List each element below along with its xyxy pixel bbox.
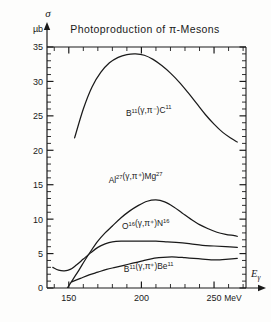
svg-text:Al27(γ,π⁺)Mg27: Al27(γ,π⁺)Mg27 <box>109 171 163 184</box>
y-tick-label: 20 <box>33 146 43 156</box>
y-tick-label: 25 <box>33 111 43 121</box>
y-tick-label: 5 <box>38 249 43 259</box>
x-tick-label: 200 <box>134 293 149 303</box>
x-axis-unit: MeV <box>224 293 242 303</box>
y-tick-label: 15 <box>33 180 43 190</box>
y-axis-unit: µb <box>33 24 43 34</box>
y-tick-label: 35 <box>33 42 43 52</box>
x-tick-label: 150 <box>61 293 76 303</box>
tick-layer <box>47 47 246 288</box>
svg-text:Eγ: Eγ <box>250 268 261 282</box>
curve-Al27_gamma_piplus_Mg27 <box>67 200 237 288</box>
y-axis-symbol: σ <box>45 7 51 19</box>
svg-text:B11(γ,π⁺)Be11: B11(γ,π⁺)Be11 <box>124 261 174 274</box>
chart-svg: 05101520253035150200250B11(γ,π⁻)C11Al27(… <box>0 0 271 322</box>
axis-layer <box>44 22 266 291</box>
y-tick-label: 10 <box>33 215 43 225</box>
y-tick-label: 0 <box>38 283 43 293</box>
label-b11-piplus-be11: B11(γ,π⁺)Be11 <box>124 261 174 274</box>
x-tick-label: 250 <box>207 293 222 303</box>
curve-B11_gamma_piminus_C11 <box>75 54 238 142</box>
label-al27-piplus-mg27: Al27(γ,π⁺)Mg27 <box>109 171 163 184</box>
figure-container: 05101520253035150200250B11(γ,π⁻)C11Al27(… <box>0 0 271 322</box>
chart-title: Photoproduction of π-Mesons <box>70 23 219 35</box>
x-axis-label: Eγ <box>250 268 261 282</box>
svg-text:B11(γ,π⁻)C11: B11(γ,π⁻)C11 <box>126 104 172 117</box>
label-o16-piplus-n16: O16(γ,π⁺)N16 <box>122 218 169 231</box>
y-axis-arrow <box>44 22 50 30</box>
label-b11-piminus-c11: B11(γ,π⁻)C11 <box>126 104 172 117</box>
y-tick-label: 30 <box>33 77 43 87</box>
svg-text:Photoproduction of π-Mesons: Photoproduction of π-Mesons <box>70 23 219 35</box>
x-axis-arrow <box>258 285 266 291</box>
svg-text:O16(γ,π⁺)N16: O16(γ,π⁺)N16 <box>122 218 169 231</box>
